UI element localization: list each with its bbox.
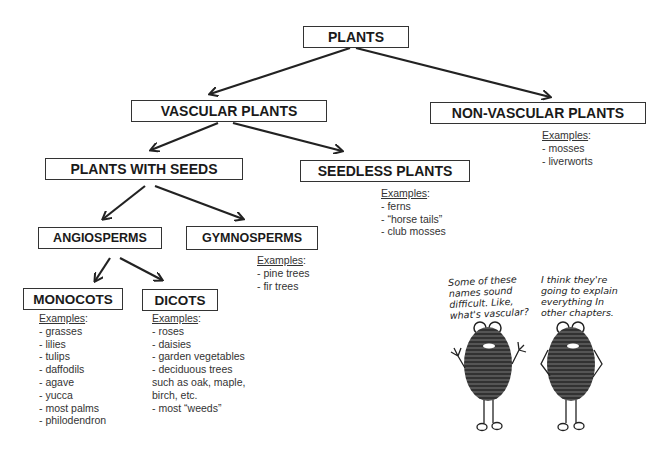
- arrow-angiosperms-to-dicots: [120, 258, 162, 280]
- node-label: ANGIOSPERMS: [53, 231, 147, 245]
- examples-heading: Examples: [39, 312, 85, 324]
- arrow-seeds-to-gymnosperms: [155, 186, 243, 219]
- example-item: - grasses: [39, 325, 106, 338]
- right-character-icon: [541, 322, 602, 431]
- example-item: - deciduous trees: [152, 363, 245, 376]
- node-label: NON-VASCULAR PLANTS: [452, 105, 624, 121]
- examples-gymnosperms: Examples: - pine trees - fir trees: [257, 254, 310, 292]
- examples-monocots: Examples: - grasses - lilies - tulips - …: [39, 312, 106, 427]
- speech-line: everything In: [541, 296, 618, 307]
- speech-line: other chapters.: [541, 307, 618, 318]
- example-item: - mosses: [542, 142, 593, 155]
- example-item: - ferns: [381, 200, 446, 213]
- example-item: - most palms: [39, 402, 106, 415]
- node-label: SEEDLESS PLANTS: [318, 163, 453, 179]
- node-label: GYMNOSPERMS: [202, 231, 302, 245]
- example-item: such as oak, maple,: [152, 376, 245, 389]
- example-item: - “horse tails”: [381, 213, 446, 226]
- arrow-seeds-to-angiosperms: [103, 186, 145, 219]
- examples-heading: Examples: [542, 129, 588, 141]
- example-item: - lilies: [39, 338, 106, 351]
- node-gymnosperms: GYMNOSPERMS: [186, 226, 318, 250]
- node-vascular-plants: VASCULAR PLANTS: [131, 100, 327, 122]
- node-label: PLANTS: [328, 29, 384, 45]
- node-angiosperms: ANGIOSPERMS: [38, 227, 162, 249]
- arrow-angiosperms-to-monocots: [95, 258, 110, 281]
- example-item: - daisies: [152, 338, 245, 351]
- node-label: PLANTS WITH SEEDS: [70, 161, 217, 177]
- example-item: birch, etc.: [152, 389, 245, 402]
- examples-dicots: Examples: - roses - daisies - garden veg…: [152, 312, 245, 414]
- examples-heading: Examples: [257, 254, 303, 266]
- node-label: VASCULAR PLANTS: [161, 103, 298, 119]
- examples-heading: Examples: [381, 187, 427, 199]
- example-item: - most “weeds”: [152, 402, 245, 415]
- speech-line: going to explain: [541, 285, 618, 296]
- example-item: - daffodils: [39, 363, 106, 376]
- example-item: - yucca: [39, 389, 106, 402]
- examples-heading: Examples: [152, 312, 198, 324]
- examples-seedless: Examples: - ferns - “horse tails” - club…: [381, 187, 446, 238]
- node-label: DICOTS: [154, 293, 205, 308]
- node-seedless-plants: SEEDLESS PLANTS: [300, 160, 470, 182]
- left-character-icon: [451, 322, 526, 431]
- speech-line: I think they're: [541, 274, 618, 285]
- node-plants-with-seeds: PLANTS WITH SEEDS: [45, 158, 243, 180]
- example-item: - philodendron: [39, 414, 106, 427]
- example-item: - pine trees: [257, 267, 310, 280]
- node-dicots: DICOTS: [142, 289, 218, 311]
- example-item: - fir trees: [257, 280, 310, 293]
- example-item: - roses: [152, 325, 245, 338]
- arrow-vascular-to-seedless: [233, 123, 342, 151]
- node-non-vascular-plants: NON-VASCULAR PLANTS: [430, 102, 646, 124]
- node-plants: PLANTS: [303, 26, 409, 48]
- example-item: - tulips: [39, 350, 106, 363]
- node-label: MONOCOTS: [33, 292, 113, 307]
- examples-nonvascular: Examples: - mosses - liverworts: [542, 129, 593, 167]
- speech-right: I think they're going to explain everyth…: [541, 274, 618, 318]
- example-item: - liverworts: [542, 155, 593, 168]
- arrow-vascular-to-seeds: [151, 123, 218, 150]
- arrow-plants-to-vascular: [210, 48, 350, 94]
- example-item: - club mosses: [381, 225, 446, 238]
- example-item: - garden vegetables: [152, 350, 245, 363]
- example-item: - agave: [39, 376, 106, 389]
- node-monocots: MONOCOTS: [23, 288, 123, 310]
- fingerprint-characters-illustration: [440, 320, 663, 455]
- arrow-plants-to-nonvascular: [356, 48, 550, 97]
- speech-left: Some of these names sound difficult. Lik…: [448, 273, 529, 321]
